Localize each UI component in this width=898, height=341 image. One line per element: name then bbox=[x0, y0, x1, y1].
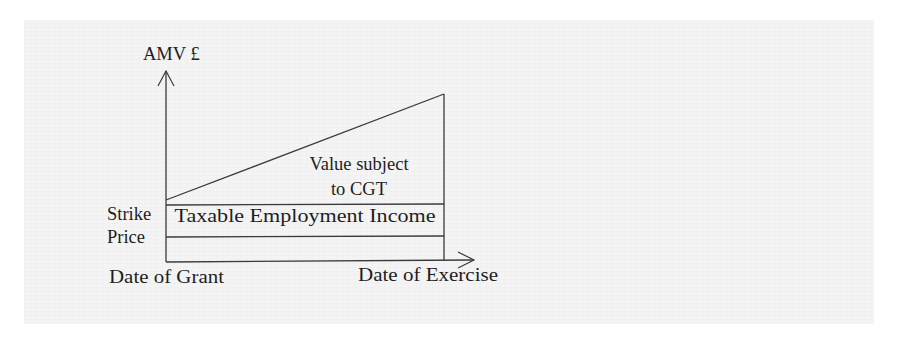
market-value-line bbox=[166, 94, 444, 200]
strike-price-label-line1: Strike bbox=[107, 204, 151, 224]
date-of-exercise-label: Date of Exercise bbox=[358, 265, 498, 285]
strike-price-line bbox=[166, 204, 444, 205]
y-axis-label: AMV £ bbox=[143, 44, 200, 64]
lower-band-line bbox=[166, 236, 444, 237]
date-of-grant-label: Date of Grant bbox=[109, 267, 225, 287]
cgt-region-label-line1: Value subject bbox=[309, 154, 409, 174]
share-option-diagram: AMV £ Value subject to CGT Taxable Emplo… bbox=[0, 0, 898, 341]
strike-price-label-line2: Price bbox=[107, 227, 145, 247]
cgt-region-label-line2: to CGT bbox=[331, 179, 387, 199]
y-axis bbox=[158, 71, 174, 262]
employment-income-region-label: Taxable Employment Income bbox=[175, 206, 436, 226]
x-axis-line bbox=[166, 260, 474, 262]
